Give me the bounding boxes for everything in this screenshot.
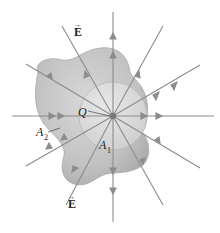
label-a2-sub: 2 [44, 133, 48, 142]
vector-arrow-bottom: → [68, 193, 75, 201]
label-a1-sub: 1 [107, 146, 111, 155]
label-a2: A [35, 125, 44, 139]
label-q: Q [78, 105, 87, 119]
gauss-law-diagram: E → E → Q A 2 A 1 [0, 0, 220, 233]
vector-arrow-top: → [74, 21, 81, 29]
charge-q [110, 113, 116, 119]
label-a1: A [98, 138, 107, 152]
